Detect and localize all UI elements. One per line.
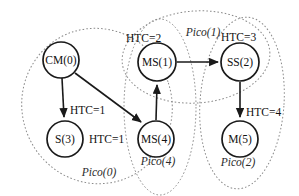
- node-label-ms1: MS(1): [142, 56, 172, 69]
- cluster-label-pico0: Pico(0): [81, 166, 117, 179]
- cluster-label-pico4: Pico(4): [140, 155, 176, 168]
- edge-label-htc1-ms4: HTC=1: [89, 133, 124, 145]
- edge-label-htc3-ss2: HTC=3: [221, 31, 256, 43]
- node-label-ss2: SS(2): [227, 56, 253, 69]
- node-label-cm0: CM(0): [45, 54, 76, 67]
- node-label-ms4: MS(4): [141, 133, 171, 146]
- network-topology-diagram: CM(0) S(3) MS(1) MS(4) SS(2) M(5) HTC=1 …: [0, 0, 299, 196]
- edge-ms4-to-ms1: [156, 85, 157, 120]
- node-label-s3: S(3): [55, 133, 75, 146]
- edge-label-htc2-ms1: HTC=2: [126, 32, 161, 44]
- cluster-label-pico1: Pico(1): [185, 26, 221, 39]
- edge-label-htc1-s3: HTC=1: [70, 104, 105, 116]
- cluster-label-pico2: Pico(2): [220, 156, 256, 169]
- diagram-canvas: CM(0) S(3) MS(1) MS(4) SS(2) M(5) HTC=1 …: [0, 0, 299, 196]
- edge-cm0-to-s3: [62, 78, 64, 117]
- edge-label-htc4-m5: HTC=4: [246, 106, 281, 118]
- node-label-m5: M(5): [228, 133, 252, 146]
